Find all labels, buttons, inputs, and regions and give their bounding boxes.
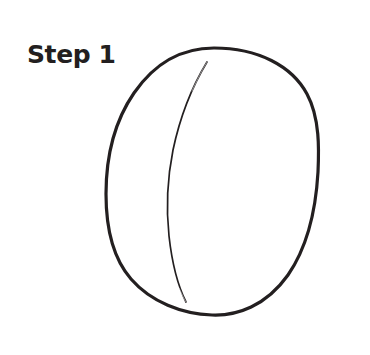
drawing-tutorial-figure: Step 1 <box>0 0 370 355</box>
step-label: Step 1 <box>27 40 116 70</box>
